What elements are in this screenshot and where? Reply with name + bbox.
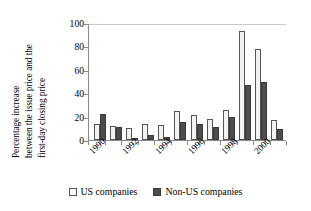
chart-figure: Percentage increase between the issue pr…	[0, 0, 311, 211]
legend-item: Non-US companies	[153, 186, 242, 197]
bar-group	[92, 24, 108, 140]
y-axis-title-line-3: first-day closing price	[37, 8, 47, 158]
bar-group	[124, 24, 140, 140]
bar-non-us-companies	[116, 127, 122, 140]
bar-group	[156, 24, 172, 140]
bar-group	[172, 24, 188, 140]
x-axis-tick-labels: 199019921994199619982000	[70, 145, 300, 179]
bar-groups	[90, 24, 286, 140]
bar-non-us-companies	[245, 85, 251, 140]
bar-group	[140, 24, 156, 140]
bar-non-us-companies	[261, 82, 267, 141]
bar-group	[205, 24, 221, 140]
y-axis-tick-label: 100	[58, 19, 84, 29]
bar-group	[237, 24, 253, 140]
chart-legend: US companiesNon-US companies	[0, 186, 311, 197]
y-axis-title-line-1: Percentage increase	[11, 8, 23, 158]
bar-non-us-companies	[277, 129, 283, 140]
y-axis-title-line-2: between the issue price and the	[24, 8, 36, 158]
legend-item: US companies	[69, 186, 138, 197]
y-axis-tick-label: 40	[58, 89, 84, 99]
y-axis-title: Percentage increase between the issue pr…	[0, 0, 56, 175]
bar-group	[253, 24, 269, 140]
legend-swatch-non-us-companies	[153, 188, 161, 196]
plot-area	[88, 24, 286, 141]
y-axis-tick-labels: 020406080100	[56, 0, 84, 211]
y-axis-tick-label: 20	[58, 113, 84, 123]
y-axis-tick-label: 60	[58, 66, 84, 76]
bar-group	[188, 24, 204, 140]
bar-group	[221, 24, 237, 140]
bar-non-us-companies	[213, 127, 219, 140]
bar-group	[269, 24, 285, 140]
bar-non-us-companies	[180, 122, 186, 140]
legend-swatch-us-companies	[69, 188, 77, 196]
bar-group	[108, 24, 124, 140]
y-axis-tick-label: 80	[58, 42, 84, 52]
bar-non-us-companies	[148, 135, 154, 140]
legend-label: US companies	[81, 186, 138, 197]
legend-label: Non-US companies	[165, 186, 242, 197]
